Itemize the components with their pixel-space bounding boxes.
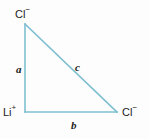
side-c-line <box>25 24 117 112</box>
vertex-label-chloride-right-charge: − <box>132 103 137 112</box>
vertex-label-chloride-top: Cl− <box>15 9 30 20</box>
vertex-label-lithium-element: Li <box>3 106 12 118</box>
vertex-label-lithium-charge: + <box>12 103 17 112</box>
ionic-triangle-figure: Cl− Li+ Cl− a b c <box>0 0 149 139</box>
vertex-label-lithium-bottom-left: Li+ <box>3 107 16 118</box>
side-label-c: c <box>75 62 80 73</box>
vertex-label-chloride-top-charge: − <box>25 5 30 14</box>
side-label-b: b <box>71 120 77 131</box>
vertex-label-chloride-right-element: Cl <box>122 106 132 118</box>
vertex-label-chloride-bottom-right: Cl− <box>122 107 137 118</box>
side-label-a: a <box>16 64 22 75</box>
vertex-label-chloride-top-element: Cl <box>15 8 25 20</box>
